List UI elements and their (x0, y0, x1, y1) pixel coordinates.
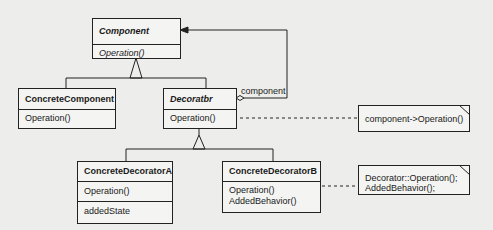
note-text: AddedBehavior(); (365, 183, 463, 193)
class-name: ConcreteDecoratorA (78, 162, 172, 182)
class-operation: AddedBehavior() (223, 196, 320, 207)
arrowhead-icon (180, 27, 188, 33)
class-decorator: Decoratbr Operation() (163, 88, 237, 129)
note-fold-icon (459, 105, 470, 115)
class-attribute: addedState (78, 202, 172, 221)
class-operation: Operation() (93, 45, 180, 62)
class-operation: Operation() (19, 110, 115, 127)
inheritance-triangle-icon (193, 135, 205, 149)
class-concrete-component: ConcreteComponent Operation() (18, 88, 116, 129)
association-label: component (241, 86, 286, 96)
class-concrete-decorator-a: ConcreteDecoratorA Operation() addedStat… (77, 161, 173, 224)
class-operation: Operation() (223, 182, 320, 196)
class-name: Decoratbr (164, 89, 236, 110)
note-decorator: component->Operation() (358, 105, 470, 132)
class-name: ConcreteComponent (19, 89, 115, 110)
note-decorator-b: Decorator::Operation(); AddedBehavior(); (358, 165, 470, 195)
note-text: component->Operation() (365, 114, 463, 124)
class-concrete-decorator-b: ConcreteDecoratorB Operation() AddedBeha… (222, 161, 321, 213)
class-name: Component (93, 19, 180, 45)
class-operation: Operation() (78, 182, 172, 202)
class-component: Component Operation() (92, 18, 181, 59)
note-text: Decorator::Operation(); (365, 173, 463, 183)
aggregation-diamond-icon (236, 96, 244, 101)
note-fold-icon (459, 165, 470, 175)
class-name: ConcreteDecoratorB (223, 162, 320, 182)
class-operation: Operation() (164, 110, 236, 127)
